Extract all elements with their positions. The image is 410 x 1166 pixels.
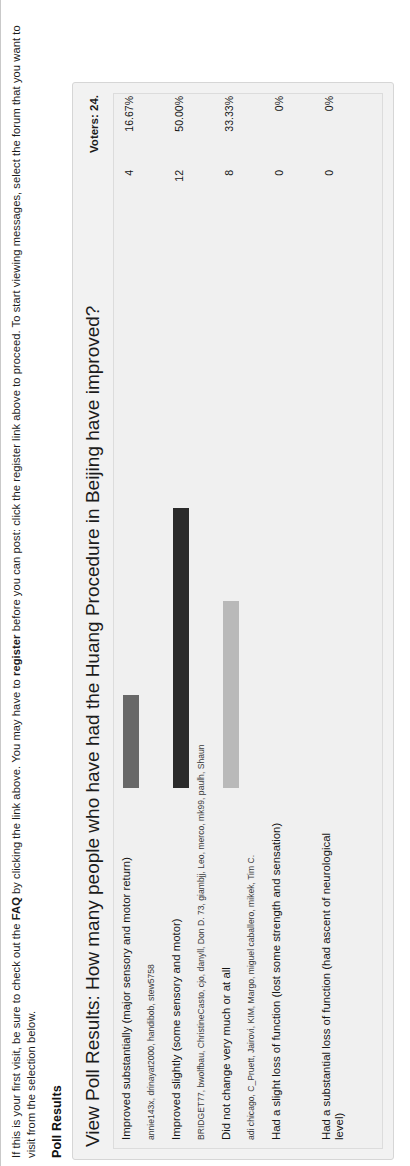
poll-row: Improved substantially (major sensory an… bbox=[120, 102, 170, 1140]
poll-voters-count: Voters: 24. bbox=[88, 95, 100, 153]
notice-text-after-faq: by clicking the link above. You may have… bbox=[10, 676, 22, 897]
poll-panel: View Poll Results: How many people who h… bbox=[72, 82, 394, 1160]
poll-vote-percent: 16.67% bbox=[123, 96, 135, 158]
poll-vote-percent: 33.33% bbox=[223, 96, 235, 158]
poll-row: Did not change very much or at alladi ch… bbox=[220, 102, 270, 1140]
poll-vote-percent: 0% bbox=[273, 96, 285, 158]
poll-results-heading: Poll Results bbox=[50, 1085, 64, 1158]
poll-vote-count: 8 bbox=[223, 170, 235, 210]
poll-title: View Poll Results: How many people who h… bbox=[82, 306, 104, 1147]
poll-option-label: Improved slightly (some sensory and moto… bbox=[170, 810, 183, 1140]
poll-vote-percent: 0% bbox=[323, 96, 335, 158]
poll-bar-track bbox=[323, 228, 339, 788]
poll-bar-fill bbox=[223, 601, 239, 788]
poll-bar-track bbox=[173, 228, 189, 788]
poll-vote-percent: 50.00% bbox=[173, 96, 185, 158]
poll-bar-track bbox=[223, 228, 239, 788]
notice-text-before-faq: If this is your first visit, be sure to … bbox=[10, 920, 22, 1158]
poll-option-label: Improved substantially (major sensory an… bbox=[120, 810, 133, 1140]
poll-vote-count: 0 bbox=[273, 170, 285, 210]
poll-option-label: Had a substantial loss of function (had … bbox=[320, 810, 346, 1140]
poll-bar-fill bbox=[173, 508, 189, 788]
forum-page: If this is your first visit, be sure to … bbox=[0, 0, 410, 1166]
poll-bar-fill bbox=[123, 695, 139, 788]
poll-bar-track bbox=[123, 228, 139, 788]
poll-row: Had a slight loss of function (lost some… bbox=[270, 102, 320, 1140]
poll-row: Had a substantial loss of function (had … bbox=[320, 102, 370, 1140]
poll-vote-count: 4 bbox=[123, 170, 135, 210]
poll-vote-count: 0 bbox=[323, 170, 335, 210]
faq-link[interactable]: FAQ bbox=[10, 897, 22, 920]
first-visit-notice: If this is your first visit, be sure to … bbox=[9, 12, 39, 1158]
register-link[interactable]: register bbox=[10, 634, 22, 675]
poll-option-voters[interactable]: annie143x, drinayat2000, handibob, stew5… bbox=[146, 580, 156, 1140]
poll-option-voters[interactable]: BRIDGET77, bwolfbau, ChristineCasto, cjo… bbox=[196, 580, 206, 1140]
poll-option-label: Had a slight loss of function (lost some… bbox=[270, 810, 283, 1140]
poll-option-label: Did not change very much or at all bbox=[220, 810, 233, 1140]
poll-bar-track bbox=[273, 228, 289, 788]
poll-row: Improved slightly (some sensory and moto… bbox=[170, 102, 220, 1140]
rotated-page-wrapper: If this is your first visit, be sure to … bbox=[0, 0, 410, 1166]
poll-header: View Poll Results: How many people who h… bbox=[82, 95, 108, 1147]
page-top-divider bbox=[0, 0, 1, 1166]
poll-results-table: Improved substantially (major sensory an… bbox=[113, 93, 383, 1149]
poll-vote-count: 12 bbox=[173, 170, 185, 210]
poll-rows-container: Improved substantially (major sensory an… bbox=[114, 94, 382, 1148]
poll-option-voters[interactable]: adi chicago, C_Pruett, Jairovi, KIM, Mar… bbox=[246, 580, 256, 1140]
